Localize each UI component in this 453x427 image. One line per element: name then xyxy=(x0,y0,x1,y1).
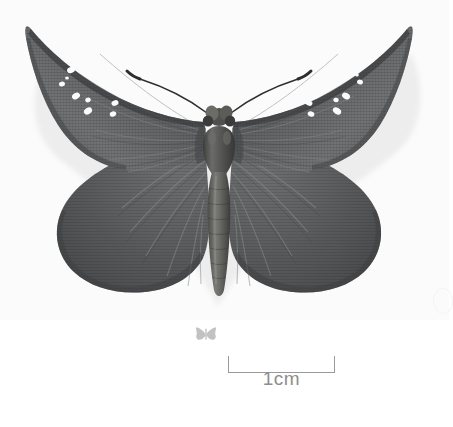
butterfly-specimen-photo xyxy=(0,0,449,320)
butterfly-illustration xyxy=(0,0,449,320)
edge-artifact-mark xyxy=(433,288,453,314)
butterfly-icon-glyph xyxy=(195,323,217,345)
grain-overlay xyxy=(0,0,449,320)
scale-bar-label: 1cm xyxy=(228,368,335,390)
butterfly-silhouette-icon xyxy=(195,323,217,345)
